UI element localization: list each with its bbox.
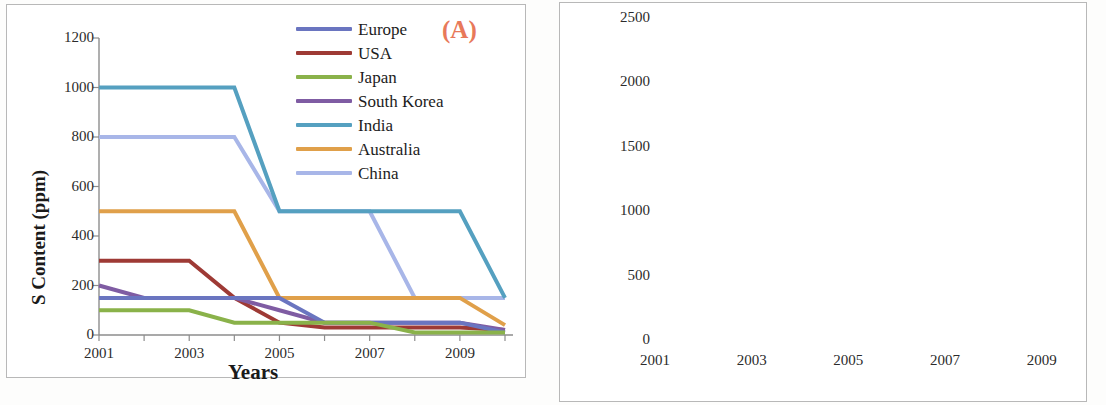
x-tick-label: 2001 xyxy=(630,352,680,369)
legend-label: Japan xyxy=(358,69,397,86)
legend-item[interactable]: Japan xyxy=(296,65,443,89)
x-tick-label: 2009 xyxy=(1017,352,1067,369)
legend-label: Australia xyxy=(358,141,420,158)
legend-label: South Korea xyxy=(358,93,443,110)
y-tick-label: 2500 xyxy=(590,9,650,26)
x-tick-label: 2007 xyxy=(345,345,395,362)
legend-color-swatch xyxy=(296,27,352,31)
y-tick-label: 800 xyxy=(34,128,94,145)
legend-color-swatch xyxy=(296,99,352,103)
x-tick-label: 2009 xyxy=(435,345,485,362)
y-tick-label: 1500 xyxy=(590,138,650,155)
series-line-usa xyxy=(99,261,505,330)
y-tick-label: 500 xyxy=(590,267,650,284)
legend-color-swatch xyxy=(296,123,352,127)
legend-item[interactable]: South Korea xyxy=(296,89,443,113)
panel-a-legend: EuropeUSAJapanSouth KoreaIndiaAustraliaC… xyxy=(296,17,443,185)
x-tick-label: 2005 xyxy=(254,345,304,362)
y-tick-label: 600 xyxy=(34,178,94,195)
x-tick-label: 2007 xyxy=(920,352,970,369)
x-tick-label: 2005 xyxy=(823,352,873,369)
y-tick-label: 1000 xyxy=(590,202,650,219)
legend-item[interactable]: China xyxy=(296,161,443,185)
legend-item[interactable]: India xyxy=(296,113,443,137)
legend-color-swatch xyxy=(296,171,352,175)
y-tick-label: 0 xyxy=(590,331,650,348)
legend-label: Europe xyxy=(358,21,407,38)
y-tick-label: 200 xyxy=(34,277,94,294)
legend-item[interactable]: Europe xyxy=(296,17,443,41)
y-tick-label: 1000 xyxy=(34,79,94,96)
y-tick-label: 0 xyxy=(34,326,94,343)
x-tick-label: 2003 xyxy=(164,345,214,362)
chart-panel-b: (B) S content (ppm) Years EuropeUSAJapan… xyxy=(553,0,1106,405)
legend-item[interactable]: USA xyxy=(296,41,443,65)
x-tick-label: 2003 xyxy=(727,352,777,369)
x-tick-label: 2001 xyxy=(74,345,124,362)
legend-label: India xyxy=(358,117,393,134)
legend-item[interactable]: Australia xyxy=(296,137,443,161)
panel-a-x-axis-title: Years xyxy=(228,360,278,385)
y-tick-label: 2000 xyxy=(590,73,650,90)
chart-panel-a: (A) S Content (ppm) Years EuropeUSAJapan… xyxy=(0,0,553,405)
y-tick-label: 1200 xyxy=(34,29,94,46)
legend-color-swatch xyxy=(296,147,352,151)
panel-a-tag: (A) xyxy=(442,16,477,44)
legend-color-swatch xyxy=(296,51,352,55)
legend-label: China xyxy=(358,165,399,182)
figure-container: (A) S Content (ppm) Years EuropeUSAJapan… xyxy=(0,0,1106,405)
y-tick-label: 400 xyxy=(34,227,94,244)
legend-label: USA xyxy=(358,45,392,62)
legend-color-swatch xyxy=(296,75,352,79)
